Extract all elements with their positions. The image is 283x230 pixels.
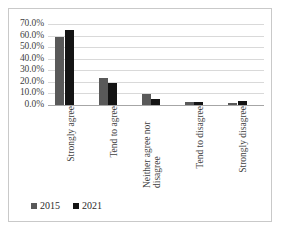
y-axis-tick-label: 10.0% (20, 89, 44, 99)
y-axis-tick-label: 60.0% (20, 31, 44, 41)
x-axis-category-labels: Strongly agreeTend to agreeNeither agree… (48, 106, 264, 191)
y-axis-tick-label: 30.0% (20, 66, 44, 76)
bar-2015-2 (99, 78, 108, 105)
y-axis-tick-labels: 0.0%10.0%20.0%30.0%40.0%50.0%60.0%70.0% (9, 9, 47, 105)
bar-2021-3 (151, 99, 160, 105)
bar-2021-2 (108, 83, 117, 105)
legend-item-2015[interactable]: 2015 (31, 201, 60, 211)
category-label-text: Strongly disagree (238, 106, 248, 173)
bar-2015-4 (185, 102, 194, 105)
bar-group (178, 24, 221, 105)
legend-swatch-icon (73, 203, 79, 209)
category-label-text: Strongly agree (66, 106, 76, 162)
y-axis-tick-label: 20.0% (20, 77, 44, 87)
legend-item-2021[interactable]: 2021 (73, 201, 102, 211)
bar-group (48, 24, 91, 105)
category-label-text: Tend to agree (109, 106, 119, 158)
chart-legend: 20152021 (31, 201, 102, 211)
bar-2021-1 (65, 30, 74, 105)
bar-group (91, 24, 134, 105)
bar-series-container (48, 24, 264, 105)
category-label-text: Neither agree nordisagree (142, 106, 162, 188)
bar-2015-3 (142, 94, 151, 105)
bar-2015-1 (55, 37, 64, 105)
y-axis-tick-label: 70.0% (20, 19, 44, 29)
bar-group (221, 24, 264, 105)
bar-group (134, 24, 177, 105)
y-axis-tick-label: 0.0% (25, 100, 44, 110)
bar-2015-5 (228, 103, 237, 105)
plot-area (48, 24, 264, 105)
legend-label: 2015 (40, 201, 60, 211)
category-label-text: Tend to disagree (195, 106, 205, 169)
bar-2021-5 (238, 101, 247, 105)
y-axis-tick-label: 50.0% (20, 42, 44, 52)
chart-figure: 0.0%10.0%20.0%30.0%40.0%50.0%60.0%70.0% … (8, 8, 272, 222)
y-axis-tick-label: 40.0% (20, 54, 44, 64)
bar-2021-4 (194, 102, 203, 105)
legend-label: 2021 (82, 201, 102, 211)
legend-swatch-icon (31, 203, 37, 209)
